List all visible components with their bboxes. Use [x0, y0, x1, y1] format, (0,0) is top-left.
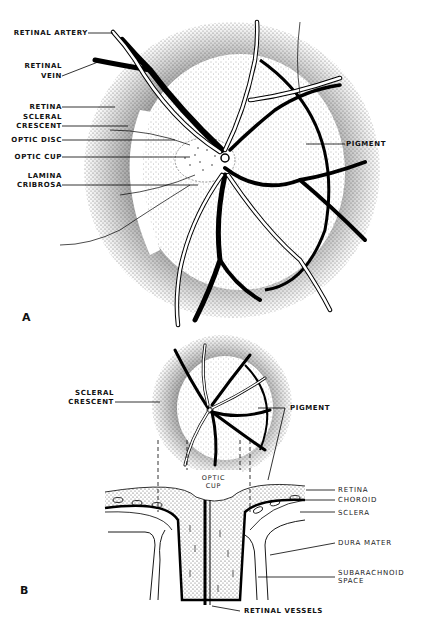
- label-scleral-crescent-b-line1: SCLERAL: [75, 389, 114, 397]
- label-retinal-vein-line1: RETINAL: [25, 62, 63, 70]
- label-scleral-crescent-b-line2: CRESCENT: [68, 398, 114, 406]
- label-sclera: SCLERA: [338, 509, 370, 517]
- label-choroid: CHOROID: [338, 496, 377, 504]
- label-subarachnoid-space-line1: SUBARACHNOID: [338, 569, 404, 577]
- label-pigment-b: PIGMENT: [290, 404, 330, 412]
- label-lamina-cribrosa-line2: CRIBROSA: [17, 181, 62, 189]
- label-retinal-vein-line2: VEIN: [41, 72, 62, 80]
- label-pigment-a: PIGMENT: [346, 140, 386, 148]
- label-optic-cup: OPTIC CUP: [15, 153, 62, 161]
- label-optic-cup-b-line1: OPTIC: [191, 474, 236, 482]
- label-optic-disc: OPTIC DISC: [11, 136, 62, 144]
- label-dura-mater: DURA MATER: [338, 539, 392, 547]
- label-retinal-artery: RETINAL ARTERY: [14, 29, 88, 37]
- label-scleral-crescent-line2: CRESCENT: [16, 122, 62, 130]
- label-optic-cup-b-line2: CUP: [191, 482, 236, 490]
- label-subarachnoid-space-line2: SPACE: [338, 577, 364, 585]
- label-retina-b: RETINA: [338, 486, 368, 494]
- label-lamina-cribrosa-line1: LAMINA: [28, 172, 62, 180]
- label-retina: RETINA: [30, 103, 62, 111]
- panel-b-fundus: [105, 335, 335, 611]
- panel-label-a: A: [22, 311, 31, 324]
- label-retinal-vessels: RETINAL VESSELS: [244, 607, 323, 615]
- panel-a-fundus: [60, 22, 380, 325]
- panel-label-b: B: [20, 584, 28, 597]
- label-scleral-crescent-line1: SCLERAL: [23, 113, 62, 121]
